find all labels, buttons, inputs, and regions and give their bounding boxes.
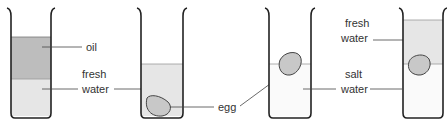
beaker-3 <box>265 8 315 118</box>
beaker-1 <box>7 8 55 118</box>
label-fresh-1: fresh <box>82 68 106 80</box>
label-water-1: water <box>81 83 109 95</box>
fresh-water-layer <box>11 79 51 116</box>
oil-layer <box>11 37 51 79</box>
label-oil: oil <box>86 41 97 53</box>
label-water-3: water <box>340 83 368 95</box>
egg-shape <box>408 55 430 75</box>
egg-density-diagram: oil fresh water egg salt water fresh wat… <box>0 0 447 128</box>
label-egg: egg <box>218 101 236 113</box>
beaker-2 <box>137 8 187 118</box>
beaker-4 <box>399 8 447 118</box>
label-fresh-4: fresh <box>345 17 369 29</box>
label-water-4: water <box>340 32 368 44</box>
label-salt: salt <box>345 68 362 80</box>
